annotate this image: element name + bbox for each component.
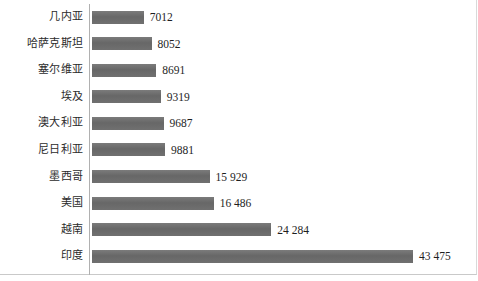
bar-row: 埃及9319 [0, 84, 478, 111]
bar-value-label: 15 929 [210, 164, 248, 191]
bar-track: 7012 [92, 4, 478, 31]
bar-value-label: 8052 [152, 31, 181, 58]
category-label: 尼日利亚 [0, 137, 83, 164]
bar-value-label: 9319 [161, 84, 190, 111]
category-label: 埃及 [0, 84, 83, 111]
category-label: 哈萨克斯坦 [0, 31, 83, 58]
category-label: 塞尔维亚 [0, 57, 83, 84]
bar [92, 11, 144, 24]
bar-chart: 几内亚7012哈萨克斯坦8052塞尔维亚8691埃及9319澳大利亚9687尼日… [0, 0, 478, 281]
bar-value-label: 8691 [156, 57, 185, 84]
category-label: 墨西哥 [0, 164, 83, 191]
category-label: 几内亚 [0, 4, 83, 31]
bar [92, 64, 156, 77]
bar-row: 尼日利亚9881 [0, 137, 478, 164]
bar-track: 8691 [92, 57, 478, 84]
bar-value-label: 24 284 [271, 217, 309, 244]
bar-track: 16 486 [92, 190, 478, 217]
bar-track: 9881 [92, 137, 478, 164]
category-label: 印度 [0, 243, 83, 270]
category-label: 美国 [0, 190, 83, 217]
bar-track: 15 929 [92, 164, 478, 191]
bar-value-label: 9687 [164, 110, 193, 137]
bar-row: 哈萨克斯坦8052 [0, 31, 478, 58]
bar-row: 墨西哥15 929 [0, 164, 478, 191]
bar [92, 170, 210, 183]
bar [92, 117, 164, 130]
bar [92, 143, 165, 156]
bar [92, 250, 413, 263]
bar [92, 90, 161, 103]
bar-track: 9319 [92, 84, 478, 111]
bar-value-label: 43 475 [413, 243, 451, 270]
bar-row: 澳大利亚9687 [0, 110, 478, 137]
bar-track: 24 284 [92, 217, 478, 244]
bar-track: 8052 [92, 31, 478, 58]
category-label: 澳大利亚 [0, 110, 83, 137]
bar-rows-container: 几内亚7012哈萨克斯坦8052塞尔维亚8691埃及9319澳大利亚9687尼日… [0, 4, 478, 270]
bar-track: 43 475 [92, 243, 478, 270]
bar-row: 印度43 475 [0, 243, 478, 270]
bar-row: 塞尔维亚8691 [0, 57, 478, 84]
bar [92, 223, 271, 236]
category-label: 越南 [0, 217, 83, 244]
bar-row: 美国16 486 [0, 190, 478, 217]
bar-value-label: 7012 [144, 4, 173, 31]
bar-value-label: 16 486 [214, 190, 252, 217]
bar [92, 197, 214, 210]
bar-value-label: 9881 [165, 137, 194, 164]
bar-track: 9687 [92, 110, 478, 137]
bar-row: 越南24 284 [0, 217, 478, 244]
bar-row: 几内亚7012 [0, 4, 478, 31]
bar [92, 37, 152, 50]
